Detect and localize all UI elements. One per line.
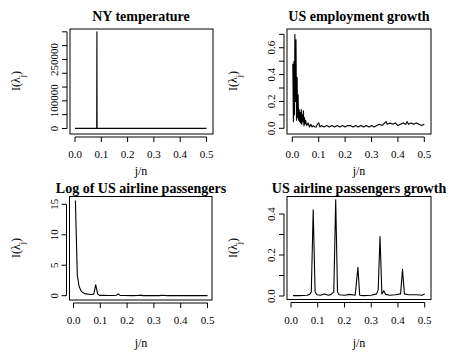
- y-axis-label: I(λj): [9, 71, 27, 91]
- y-tick-label: 0.2: [265, 248, 277, 262]
- y-tick-label: 0.0: [265, 121, 277, 135]
- panel-title: Log of US airline passengers: [56, 181, 227, 196]
- x-tick-label: 0.4: [173, 148, 187, 160]
- plot-frame: [70, 197, 213, 301]
- y-tick-label: 100000: [48, 84, 60, 118]
- x-tick-label: 0.4: [174, 314, 188, 326]
- x-tick-label: 0.1: [93, 314, 107, 326]
- x-tick-label: 0.1: [94, 148, 108, 160]
- x-tick-label: 0.2: [338, 148, 352, 160]
- plot-frame: [287, 29, 431, 134]
- x-tick-label: 0.2: [121, 148, 135, 160]
- y-tick-label: 250000: [48, 42, 60, 76]
- y-tick-label: 15: [48, 198, 60, 210]
- x-tick-label: 0.3: [364, 314, 378, 326]
- x-tick-label: 0.0: [67, 314, 81, 326]
- x-tick-label: 0.3: [147, 148, 161, 160]
- periodogram-line: [75, 201, 207, 296]
- x-tick-label: 0.0: [285, 148, 299, 160]
- periodogram-figure: NY temperature j/n I(λj) 0.00.10.20.30.4…: [0, 0, 453, 364]
- plot-frame: [70, 29, 213, 134]
- panel-us-employment-growth: US employment growth j/n I(λj) 0.00.10.2…: [226, 9, 432, 178]
- x-axis-label: j/n: [352, 164, 366, 178]
- x-axis: 0.00.10.20.30.40.5: [284, 303, 432, 326]
- y-tick-label: 0: [48, 292, 60, 298]
- y-tick-label: 5: [48, 262, 60, 268]
- y-axis-label: I(λj): [226, 71, 244, 91]
- y-axis: 0.00.20.40.6: [265, 34, 284, 135]
- panel-log-us-airline-passengers: Log of US airline passengers j/n I(λj) 0…: [9, 181, 227, 350]
- periodogram-line: [75, 32, 207, 129]
- x-tick-label: 0.5: [418, 314, 432, 326]
- x-tick-label: 0.2: [338, 314, 352, 326]
- periodogram-line: [293, 200, 425, 296]
- x-axis: 0.00.10.20.30.40.5: [67, 303, 215, 326]
- y-tick-label: 0.6: [265, 40, 277, 54]
- panel-ny-temperature: NY temperature j/n I(λj) 0.00.10.20.30.4…: [9, 9, 214, 178]
- x-axis: 0.00.10.20.30.40.5: [68, 137, 214, 160]
- panel-title: US employment growth: [288, 9, 430, 24]
- y-axis-label: I(λj): [226, 238, 244, 258]
- panel-title: NY temperature: [92, 9, 190, 24]
- x-axis-label: j/n: [134, 336, 148, 350]
- x-tick-label: 0.1: [311, 314, 325, 326]
- x-tick-label: 0.0: [284, 314, 298, 326]
- y-tick-label: 10: [48, 229, 60, 241]
- x-axis-label: j/n: [134, 164, 148, 178]
- y-tick-label: 0: [48, 125, 60, 131]
- panel-title: US airline passengers growth: [272, 181, 447, 196]
- y-tick-label: 0.0: [265, 289, 277, 303]
- y-axis-label: I(λj): [9, 238, 27, 258]
- x-tick-label: 0.5: [200, 148, 214, 160]
- x-axis: 0.00.10.20.30.40.5: [285, 137, 431, 160]
- x-tick-label: 0.5: [417, 148, 431, 160]
- x-tick-label: 0.3: [147, 314, 161, 326]
- x-tick-label: 0.4: [391, 314, 405, 326]
- panel-us-airline-passengers-growth: US airline passengers growth j/n I(λj) 0…: [226, 181, 446, 350]
- periodogram-line: [293, 34, 425, 127]
- x-tick-label: 0.1: [312, 148, 326, 160]
- y-axis: 0.00.20.4: [265, 207, 284, 303]
- y-tick-label: 0.4: [265, 67, 277, 81]
- y-tick-label: 0.4: [265, 207, 277, 221]
- x-tick-label: 0.2: [120, 314, 134, 326]
- x-tick-label: 0.3: [365, 148, 379, 160]
- y-axis: 051015: [48, 198, 67, 298]
- x-tick-label: 0.0: [68, 148, 82, 160]
- x-tick-label: 0.5: [201, 314, 215, 326]
- figure-canvas: NY temperature j/n I(λj) 0.00.10.20.30.4…: [0, 0, 453, 364]
- y-axis: 0100000250000: [48, 32, 67, 131]
- x-tick-label: 0.4: [391, 148, 405, 160]
- y-tick-label: 0.2: [265, 95, 277, 109]
- x-axis-label: j/n: [352, 336, 366, 350]
